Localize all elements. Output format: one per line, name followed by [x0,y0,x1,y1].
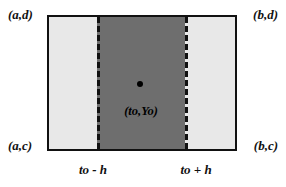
corner-label-bottom-left: (a,c) [8,139,32,152]
tick-label-to-minus-h: to - h [79,163,107,176]
dashed-line-right-boundary [185,17,188,149]
tick-label-to-plus-h: to + h [180,163,211,176]
corner-label-top-left: (a,d) [8,8,33,21]
center-point-label: (to,Yo) [124,105,158,118]
corner-label-top-right: (b,d) [253,8,278,21]
center-point-dot [137,81,143,87]
corner-label-bottom-right: (b,c) [254,139,278,152]
dashed-line-left-boundary [97,17,100,149]
domain-rectangle: (to,Yo) [47,15,237,151]
rectangle-domain-figure: (a,d) (b,d) (a,c) (b,c) (to,Yo) to - h t… [0,0,286,187]
